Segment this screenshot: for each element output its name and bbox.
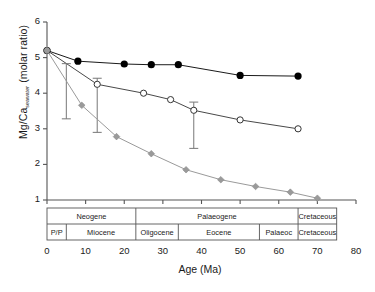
marker-open-circles-6 xyxy=(295,126,301,132)
x-axis-tick-label-0: 0 xyxy=(35,245,59,256)
marker-open-circles-2 xyxy=(140,90,146,96)
marker-grey-diamonds-4 xyxy=(183,166,190,173)
timescale-epoch-cretaceous: Cretaceous xyxy=(298,227,337,238)
marker-black-filled-circles-5 xyxy=(237,72,244,79)
y-axis-tick-label-2: 2 xyxy=(22,157,40,168)
y-axis-tick-label-5: 5 xyxy=(22,51,40,62)
marker-black-filled-circles-2 xyxy=(121,60,128,67)
y-axis-tick-label-3: 3 xyxy=(22,122,40,133)
timescale-epoch-miocene: Miocene xyxy=(66,227,136,238)
marker-open-circles-1 xyxy=(94,81,100,87)
y-axis-tick-label-1: 1 xyxy=(22,193,40,204)
y-axis-tick-label-6: 6 xyxy=(22,15,40,26)
x-axis-tick-label-80: 80 xyxy=(344,245,368,256)
x-axis-tick-label-30: 30 xyxy=(151,245,175,256)
timescale-era-cretaceous: Cretaceous xyxy=(298,211,337,222)
marker-black-filled-circles-6 xyxy=(294,73,301,80)
marker-open-circles-3 xyxy=(168,97,174,103)
x-axis-tick-label-60: 60 xyxy=(267,245,291,256)
marker-black-filled-circles-4 xyxy=(175,61,182,68)
y-axis-tick-label-4: 4 xyxy=(22,86,40,97)
marker-black-filled-circles-3 xyxy=(148,61,155,68)
x-axis-tick-label-70: 70 xyxy=(305,245,329,256)
marker-grey-diamonds-5 xyxy=(218,176,225,183)
marker-grey-diamonds-6 xyxy=(252,183,259,190)
x-axis-tick-label-10: 10 xyxy=(74,245,98,256)
timescale-era-neogene: Neogene xyxy=(47,211,136,222)
marker-black-filled-circles-1 xyxy=(74,58,81,65)
series-line-open-circles xyxy=(47,50,298,128)
series-line-grey-diamonds xyxy=(47,50,317,198)
marker-open-circles-5 xyxy=(237,117,243,123)
timescale-era-palaeogene: Palaeogene xyxy=(136,211,298,222)
x-axis-tick-label-50: 50 xyxy=(228,245,252,256)
timescale-epoch-p-p: P/P xyxy=(47,227,66,238)
marker-grey-diamonds-7 xyxy=(287,189,294,196)
timescale-epoch-eocene: Eocene xyxy=(178,227,259,238)
x-axis-tick-label-40: 40 xyxy=(190,245,214,256)
marker-open-circles-4 xyxy=(191,107,197,113)
timescale-epoch-oligocene: Oligocene xyxy=(136,227,178,238)
x-axis-tick-label-20: 20 xyxy=(112,245,136,256)
series-line-black-filled-circles xyxy=(47,50,298,76)
chart-figure: Mg/Caseawater (molar ratio) Age (Ma) 123… xyxy=(0,0,375,292)
timescale-epoch-palaeoc: Palaeoc xyxy=(259,227,298,238)
marker-grey-diamonds-3 xyxy=(148,150,155,157)
